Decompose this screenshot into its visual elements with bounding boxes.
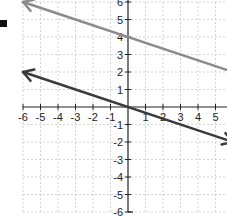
x-tick-label: -5 xyxy=(36,111,46,123)
y-tick-label: 6 xyxy=(117,0,123,8)
x-tick-label: -4 xyxy=(53,111,63,123)
y-tick-label: 2 xyxy=(117,66,123,78)
y-tick-label: -4 xyxy=(113,171,123,183)
coordinate-plane: -6-5-4-3-2-112345654321-1-2-3-4-5-6 xyxy=(0,0,227,216)
y-tick-label: -3 xyxy=(113,154,123,166)
y-tick-label: -5 xyxy=(113,189,123,201)
y-tick-label: 1 xyxy=(117,84,123,96)
y-tick-label: -2 xyxy=(113,136,123,148)
y-tick-label: 5 xyxy=(117,14,123,26)
y-tick-label: -1 xyxy=(113,119,123,131)
x-tick-label: 5 xyxy=(212,111,218,123)
x-tick-label: 3 xyxy=(177,111,183,123)
x-tick-label: -2 xyxy=(88,111,98,123)
x-tick-label: -3 xyxy=(71,111,81,123)
x-tick-label: 4 xyxy=(195,111,201,123)
x-tick-label: -6 xyxy=(18,111,28,123)
y-tick-label: -6 xyxy=(113,206,123,216)
y-tick-label: 3 xyxy=(117,49,123,61)
